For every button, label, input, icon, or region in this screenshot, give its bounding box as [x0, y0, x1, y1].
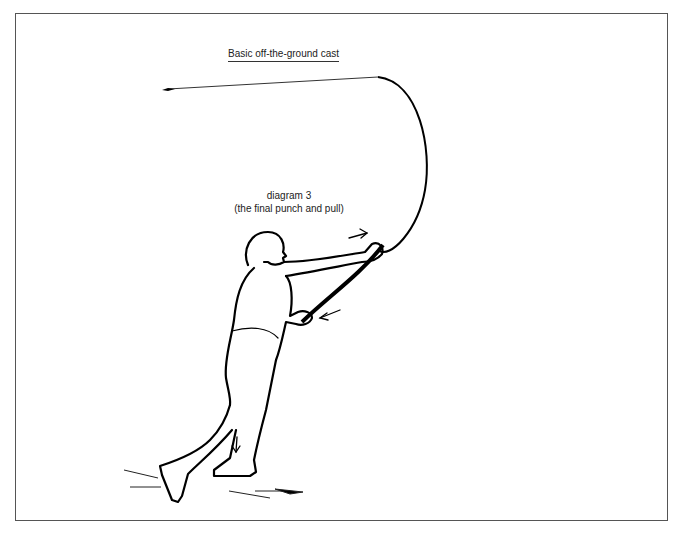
angler-figure	[160, 232, 383, 502]
arrow-push-icon	[349, 229, 367, 238]
casting-line	[168, 77, 378, 89]
fishing-rod	[302, 77, 427, 322]
motion-arrows	[232, 229, 367, 452]
arrow-pull-icon	[320, 310, 340, 320]
cast-illustration	[0, 0, 681, 536]
